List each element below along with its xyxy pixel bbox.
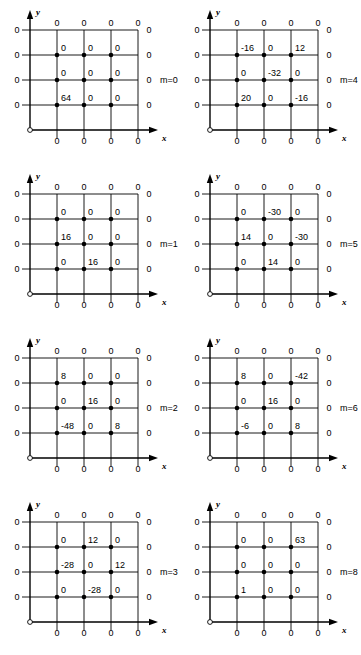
boundary-zero-right: 0 [326, 593, 331, 602]
boundary-zero-top: 0 [54, 183, 59, 192]
boundary-zero-top: 0 [81, 19, 86, 28]
node-value: 0 [268, 561, 273, 570]
node-value: 8 [61, 372, 66, 381]
node-value: 63 [295, 536, 305, 545]
boundary-zero-bottom: 0 [135, 137, 140, 146]
boundary-zero-top: 0 [261, 511, 266, 520]
origin-marker [208, 292, 213, 297]
x-axis-label: x [342, 462, 347, 471]
node-value: 12 [295, 44, 305, 53]
boundary-zero-right: 0 [146, 26, 151, 35]
boundary-zero-bottom: 0 [234, 301, 239, 310]
boundary-zero-bottom: 0 [315, 465, 320, 474]
boundary-zero-left: 0 [194, 543, 199, 552]
boundary-zero-left: 0 [194, 240, 199, 249]
origin-marker [208, 128, 213, 133]
node-value: 14 [268, 258, 278, 267]
node-value: 20 [241, 94, 251, 103]
grid-mesh [22, 194, 138, 302]
panel-inner: 00000000000000000063000100yxm=8 [180, 492, 360, 655]
boundary-zero-left: 0 [14, 76, 19, 85]
node-value: -6 [241, 422, 249, 431]
boundary-zero-top: 0 [315, 19, 320, 28]
node-value: 0 [295, 586, 300, 595]
boundary-zero-bottom: 0 [135, 301, 140, 310]
boundary-zero-left: 0 [194, 190, 199, 199]
x-axis-label: x [342, 134, 347, 143]
node-value: 0 [295, 69, 300, 78]
panel-m2: 00000000000000008000160-4808yxm=2 [0, 328, 180, 492]
node-value: -16 [295, 94, 308, 103]
boundary-zero-bottom: 0 [234, 465, 239, 474]
panel-inner: 00000000000000000000006400yxm=0 [0, 0, 180, 164]
boundary-zero-right: 0 [146, 215, 151, 224]
boundary-zero-right: 0 [146, 101, 151, 110]
origin-marker [208, 620, 213, 625]
node-value: 12 [88, 536, 98, 545]
node-value: 16 [88, 258, 98, 267]
node-value: 0 [295, 258, 300, 267]
panel-m8: 00000000000000000063000100yxm=8 [180, 492, 360, 655]
boundary-zero-top: 0 [288, 183, 293, 192]
node-value: 0 [268, 44, 273, 53]
node-value: 0 [61, 258, 66, 267]
node-value: 0 [115, 44, 120, 53]
node-value: 0 [61, 397, 66, 406]
node-value: 0 [268, 372, 273, 381]
node-value: 0 [88, 94, 93, 103]
node-value: 0 [241, 561, 246, 570]
boundary-zero-top: 0 [108, 511, 113, 520]
boundary-zero-right: 0 [326, 379, 331, 388]
x-axis-label: x [342, 298, 347, 307]
boundary-zero-left: 0 [194, 429, 199, 438]
y-axis-label: y [36, 336, 40, 345]
boundary-zero-left: 0 [14, 190, 19, 199]
node-value: 0 [88, 44, 93, 53]
panel-mode-label: m=5 [340, 240, 358, 249]
boundary-zero-bottom: 0 [108, 137, 113, 146]
node-value: 0 [115, 372, 120, 381]
boundary-zero-bottom: 0 [54, 137, 59, 146]
panel-mode-label: m=8 [340, 568, 358, 577]
boundary-zero-bottom: 0 [288, 465, 293, 474]
panel-inner: 00000000000000008000160-4808yxm=2 [0, 328, 180, 492]
boundary-zero-bottom: 0 [54, 629, 59, 638]
boundary-zero-bottom: 0 [288, 629, 293, 638]
y-axis-label: y [216, 336, 220, 345]
boundary-zero-right: 0 [326, 265, 331, 274]
boundary-zero-bottom: 0 [54, 465, 59, 474]
boundary-zero-bottom: 0 [315, 301, 320, 310]
boundary-zero-left: 0 [14, 101, 19, 110]
x-axis-label: x [162, 626, 167, 635]
boundary-zero-left: 0 [194, 76, 199, 85]
boundary-zero-bottom: 0 [135, 465, 140, 474]
node-value: 0 [88, 208, 93, 217]
panel-mode-label: m=0 [160, 76, 178, 85]
y-axis-label: y [36, 500, 40, 509]
boundary-zero-top: 0 [135, 347, 140, 356]
boundary-zero-right: 0 [326, 543, 331, 552]
node-value: 0 [115, 69, 120, 78]
node-value: 0 [88, 69, 93, 78]
boundary-zero-right: 0 [326, 240, 331, 249]
node-value: 0 [295, 208, 300, 217]
node-value: 0 [241, 258, 246, 267]
boundary-zero-right: 0 [326, 26, 331, 35]
boundary-zero-left: 0 [14, 265, 19, 274]
figure-sheet: 00000000000000000000006400yxm=0000000000… [0, 0, 361, 655]
panel-m5: 00000000000000000-300140-300140yxm=5 [180, 164, 360, 328]
node-value: 0 [115, 397, 120, 406]
node-value: -42 [295, 372, 308, 381]
boundary-zero-right: 0 [146, 404, 151, 413]
node-value: 0 [268, 586, 273, 595]
panel-inner: 000000000000000080-420160-608yxm=6 [180, 328, 360, 492]
node-value: 8 [115, 422, 120, 431]
node-value: -28 [61, 561, 74, 570]
panel-m1: 000000000000000000016000160yxm=1 [0, 164, 180, 328]
boundary-zero-left: 0 [14, 404, 19, 413]
node-value: 0 [61, 208, 66, 217]
boundary-zero-bottom: 0 [135, 629, 140, 638]
origin-marker [28, 128, 33, 133]
boundary-zero-left: 0 [194, 404, 199, 413]
boundary-zero-top: 0 [261, 347, 266, 356]
